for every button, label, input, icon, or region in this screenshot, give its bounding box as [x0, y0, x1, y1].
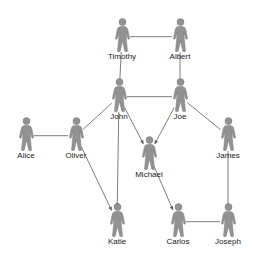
person-icon [84, 78, 154, 112]
network-diagram: TimothyAlbertJohnJoeAliceOliverMichaelJa… [0, 0, 253, 256]
node-label-katie: Katie [82, 237, 152, 247]
node-michael[interactable]: Michael [114, 136, 184, 180]
node-label-james: James [193, 151, 253, 161]
person-icon [193, 203, 253, 237]
node-john[interactable]: John [84, 78, 154, 122]
node-label-albert: Albert [145, 52, 215, 62]
person-icon [145, 78, 215, 112]
node-albert[interactable]: Albert [145, 18, 215, 62]
node-oliver[interactable]: Oliver [41, 117, 111, 161]
person-icon [82, 203, 152, 237]
person-icon [114, 136, 184, 170]
node-label-joseph: Joseph [193, 237, 253, 247]
node-joe[interactable]: Joe [145, 78, 215, 122]
person-icon [41, 117, 111, 151]
node-james[interactable]: James [193, 117, 253, 161]
node-joseph[interactable]: Joseph [193, 203, 253, 247]
person-icon [145, 18, 215, 52]
node-label-oliver: Oliver [41, 151, 111, 161]
node-katie[interactable]: Katie [82, 203, 152, 247]
person-icon [193, 117, 253, 151]
node-label-michael: Michael [114, 170, 184, 180]
